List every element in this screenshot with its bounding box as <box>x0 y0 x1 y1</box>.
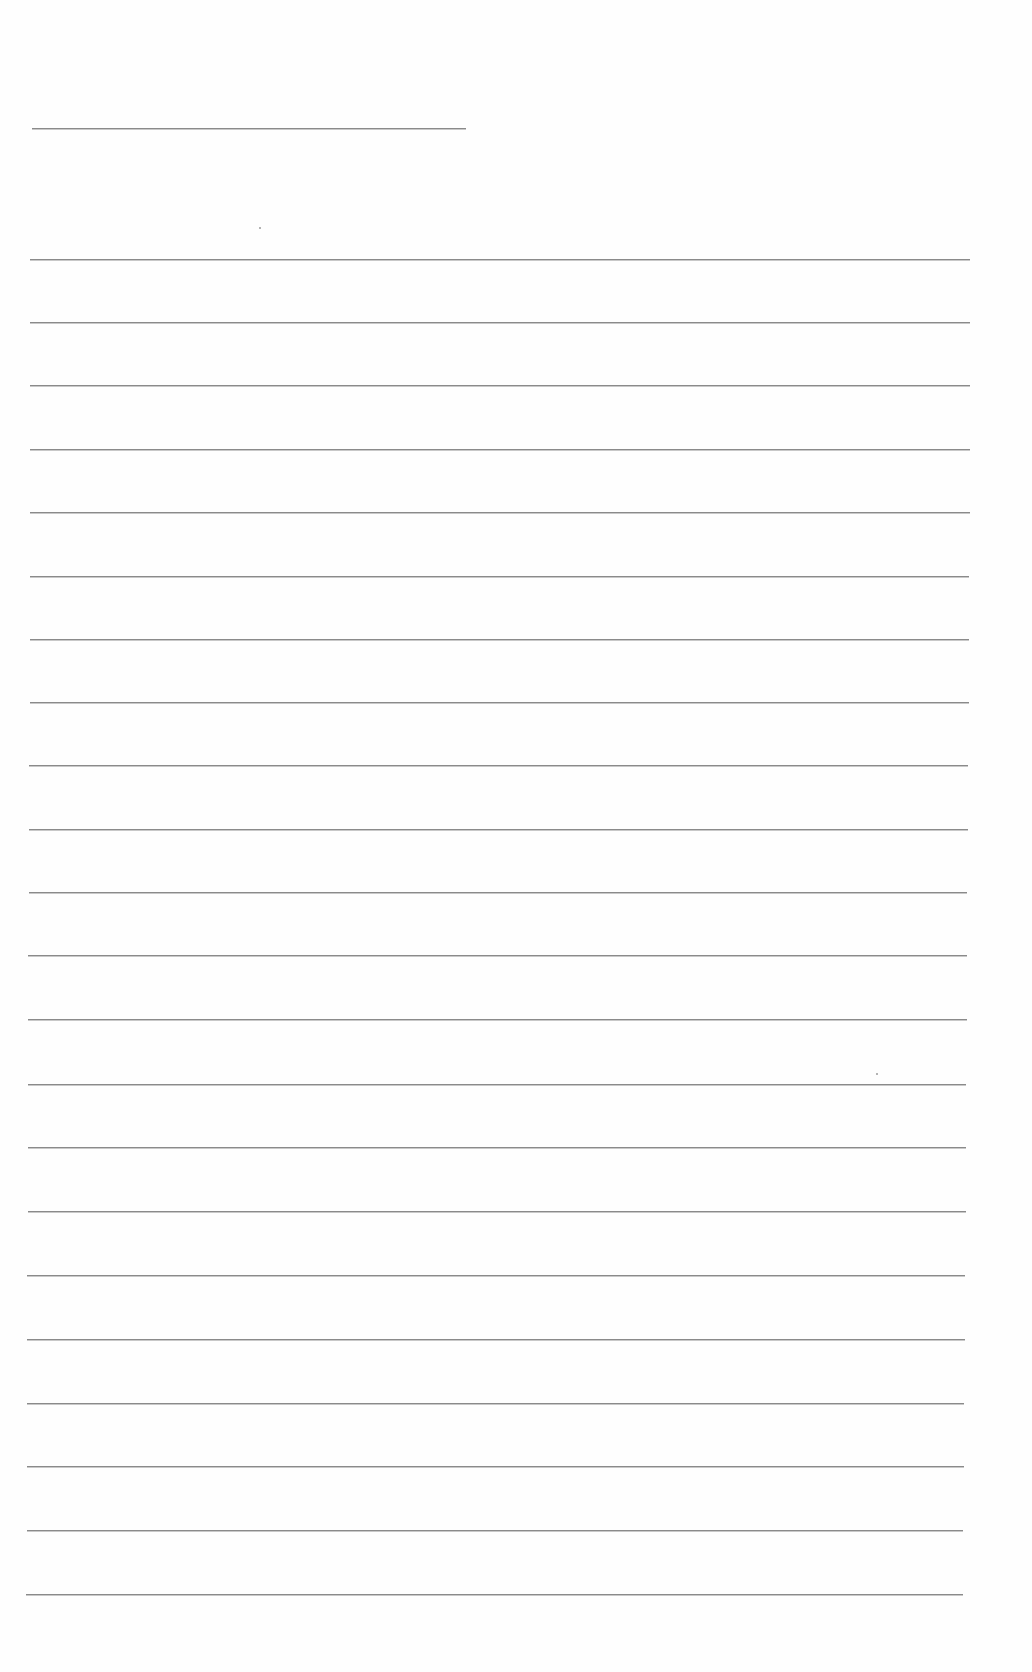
ruled-line <box>28 1211 966 1213</box>
ruled-line <box>30 512 970 514</box>
ruled-line <box>28 955 967 957</box>
ruled-line <box>30 702 969 704</box>
ruled-line <box>27 1275 965 1277</box>
ruled-line <box>28 1084 966 1086</box>
ruled-line <box>29 765 968 767</box>
ruled-line <box>26 1594 963 1596</box>
ruled-line <box>27 1403 964 1405</box>
ruled-line <box>30 639 969 641</box>
ruled-line <box>27 1339 965 1341</box>
ruled-line <box>30 449 970 451</box>
ruled-line <box>30 259 970 261</box>
header-line <box>32 128 466 130</box>
ruled-line <box>27 1466 964 1468</box>
ruled-line <box>29 892 967 894</box>
scan-speck <box>259 227 261 229</box>
ruled-line <box>27 1530 963 1532</box>
ruled-line <box>30 576 969 578</box>
ruled-line <box>28 1147 966 1149</box>
ruled-line <box>29 829 968 831</box>
ruled-line <box>30 385 970 387</box>
lined-paper-page <box>0 0 1032 1672</box>
scan-speck <box>876 1073 878 1075</box>
ruled-line <box>30 322 970 324</box>
ruled-line <box>28 1019 967 1021</box>
